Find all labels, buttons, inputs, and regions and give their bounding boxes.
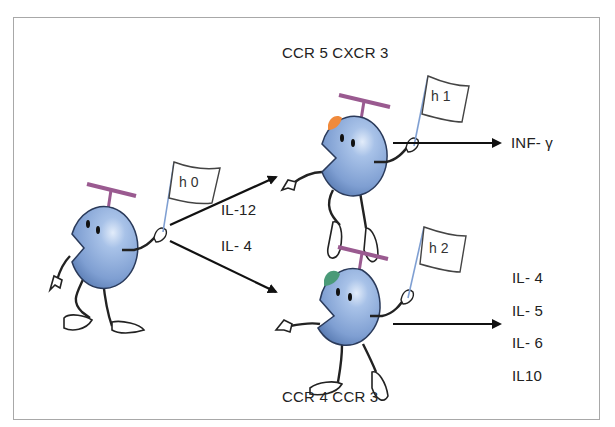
output-h2-1: IL- 5: [512, 302, 543, 319]
diagram-artwork: [0, 0, 615, 427]
flag-label-h2: h 2: [429, 240, 448, 256]
signal-il4: IL- 4: [221, 237, 252, 254]
signal-il12: IL-12: [221, 201, 256, 218]
flag-label-h0: h 0: [179, 174, 198, 190]
receptors-h1: CCR 5 CXCR 3: [282, 44, 389, 61]
receptors-h2: CCR 4 CCR 3: [282, 388, 378, 405]
output-h2-2: IL- 6: [512, 334, 543, 351]
propeller-icon: [338, 247, 388, 259]
output-h1-0: INF- γ: [511, 134, 553, 151]
output-h2-3: IL10: [512, 367, 542, 384]
flag-label-h1: h 1: [431, 88, 450, 104]
output-h2-0: IL- 4: [512, 269, 543, 286]
